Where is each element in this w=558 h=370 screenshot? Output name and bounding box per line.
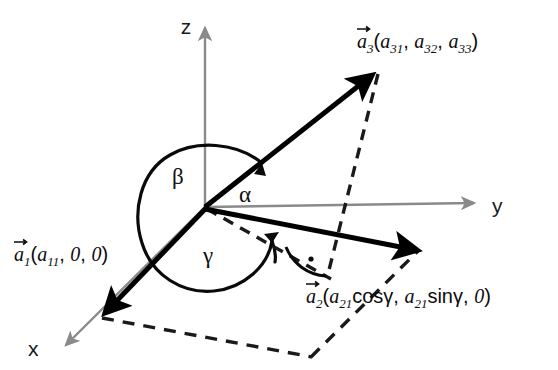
a3-close-paren: ) <box>471 30 478 52</box>
right-angle-dot-icon <box>308 256 313 261</box>
a2-comp2-angle: γ <box>453 285 463 307</box>
a3-comp1: a <box>380 30 390 52</box>
angle-alpha-label: α <box>239 182 251 207</box>
svg-text:a2(a21cosγ, a21sinγ, 0): a2(a21cosγ, a21sinγ, 0) <box>306 285 491 311</box>
base-plane-edge-1 <box>102 318 312 357</box>
vector-a2-line <box>205 209 416 250</box>
right-angle-arc-icon <box>286 247 326 276</box>
vector-a1-label: a1(a11, 0, 0) <box>14 240 108 270</box>
a2-comp1-angle: γ <box>383 285 393 307</box>
a3-comp3-sub: 33 <box>457 41 472 56</box>
angle-gamma-label: γ <box>202 243 213 268</box>
a2-comp2-fn: sin <box>427 285 453 307</box>
vector-diagram-canvas: z y x α β γ a3(a31, a32, a33) a1(a11, 0,… <box>0 0 558 370</box>
a3-comp3: a <box>448 30 458 52</box>
svg-text:a3(a31, a32, a33): a3(a31, a32, a33) <box>357 30 478 56</box>
a2-symbol: a <box>306 285 316 307</box>
vector-a3-line <box>205 76 371 207</box>
a3-comp1-sub: 31 <box>389 41 403 56</box>
a1-comp2: 0 <box>70 243 80 265</box>
a2-close-paren: ) <box>484 285 491 307</box>
x-axis-label: x <box>28 337 39 360</box>
projection-lines-group <box>102 74 418 357</box>
vector-a2-label: a2(a21cosγ, a21sinγ, 0) <box>306 282 491 312</box>
vector-diagram-figure: z y x α β γ a3(a31, a32, a33) a1(a11, 0,… <box>0 0 558 370</box>
a1-close-paren: ) <box>101 243 108 265</box>
right-angle-marker <box>286 247 326 276</box>
a2-comp2-coeff: a <box>404 285 414 307</box>
a1-comp3: 0 <box>91 243 101 265</box>
a1-comp1-sub: 11 <box>47 254 59 269</box>
y-axis-label: y <box>492 194 503 217</box>
a2-comp1-coeff: a <box>329 285 339 307</box>
a2-comp1-fn: cos <box>352 285 383 307</box>
vector-a1-line <box>106 207 207 312</box>
gamma-arc-tail <box>272 241 275 262</box>
a2-comp3: 0 <box>474 285 484 307</box>
z-axis-label: z <box>181 15 192 38</box>
a3-comp2: a <box>414 30 424 52</box>
svg-text:a1(a11, 0, 0): a1(a11, 0, 0) <box>14 243 108 269</box>
vector-a3-label: a3(a31, a32, a33) <box>357 27 478 57</box>
a1-comp1: a <box>37 243 47 265</box>
a1-symbol: a <box>14 243 24 265</box>
angle-beta-label: β <box>172 164 184 189</box>
a3-comp2-sub: 32 <box>423 41 438 56</box>
a3-symbol: a <box>357 30 367 52</box>
a2-comp2-sub: 21 <box>414 296 427 311</box>
a2-comp1-sub: 21 <box>339 296 352 311</box>
